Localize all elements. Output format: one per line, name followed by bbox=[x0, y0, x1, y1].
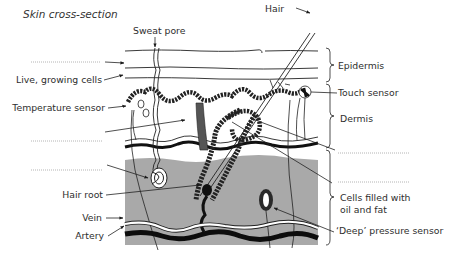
label-hair: Hair bbox=[265, 3, 284, 14]
braces bbox=[326, 48, 334, 245]
temperature-sensor bbox=[133, 100, 149, 140]
label-cells-filled-line2: oil and fat bbox=[340, 204, 387, 215]
label-sweat-pore: Sweat pore bbox=[133, 25, 185, 36]
skin-cross-section-diagram bbox=[0, 0, 455, 256]
label-dermis: Dermis bbox=[340, 113, 373, 124]
hair-root-bulb bbox=[202, 184, 212, 196]
sweat-gland bbox=[151, 168, 167, 188]
label-artery: Artery bbox=[75, 230, 104, 241]
label-touch-sensor: Touch sensor bbox=[338, 87, 398, 98]
label-epidermis: Epidermis bbox=[338, 60, 384, 71]
label-hair-root: Hair root bbox=[62, 189, 103, 200]
label-vein: Vein bbox=[82, 212, 102, 223]
label-deep-pressure-sensor: ‘Deep’ pressure sensor bbox=[336, 225, 443, 236]
label-temperature-sensor: Temperature sensor bbox=[12, 102, 105, 113]
label-live-growing-cells: Live, growing cells bbox=[16, 74, 102, 85]
label-cells-filled-line1: Cells filled with bbox=[340, 192, 411, 203]
